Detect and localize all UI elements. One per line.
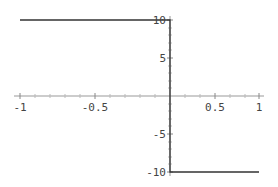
x-tick-label: -0.5: [82, 101, 109, 114]
x-axis: [14, 93, 264, 99]
step-function-plot: -1 -0.5 0.5 1 10 5 -5 -10: [0, 0, 278, 187]
y-tick-label: -5: [153, 128, 166, 141]
y-tick-label: 10: [153, 14, 166, 27]
x-tick-label: 0.5: [205, 101, 225, 114]
y-tick-label: 5: [159, 52, 166, 65]
x-tick-label: 1: [256, 101, 263, 114]
y-tick-label: -10: [146, 166, 166, 179]
x-tick-label: -1: [13, 101, 26, 114]
